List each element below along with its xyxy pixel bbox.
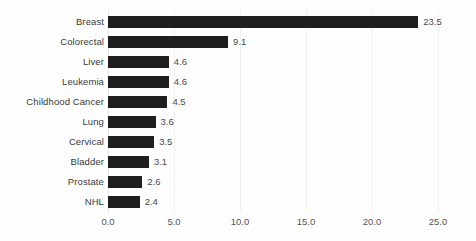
category-label: Lung [82,112,104,132]
bar-track: 23.5 [108,12,476,32]
bar-value-label: 2.6 [142,172,160,192]
category-label: Childhood Cancer [26,92,104,112]
bar-row: Lung3.6 [0,112,476,132]
category-label: Breast [76,12,104,32]
bar [108,56,169,68]
bar [108,76,169,88]
bar-row: Breast23.5 [0,12,476,32]
bar-track: 3.6 [108,112,476,132]
bar-value-label: 4.5 [167,92,185,112]
bar [108,156,149,168]
category-label: NHL [85,192,104,212]
bar-value-label: 3.1 [149,152,167,172]
bar-track: 4.5 [108,92,476,112]
bar-track: 4.6 [108,52,476,72]
bar-track: 3.1 [108,152,476,172]
bar-track: 3.5 [108,132,476,152]
x-tick-label: 0.0 [101,216,114,227]
category-label: Leukemia [62,72,104,92]
bar-row: Cervical3.5 [0,132,476,152]
bar-row: Prostate2.6 [0,172,476,192]
bar-chart: Breast23.5Colorectal9.1Liver4.6Leukemia4… [0,0,476,241]
bar [108,96,167,108]
bar-rows: Breast23.5Colorectal9.1Liver4.6Leukemia4… [0,12,476,212]
bar-row: Liver4.6 [0,52,476,72]
bar [108,176,142,188]
bar [108,16,418,28]
bar-value-label: 4.6 [169,52,187,72]
x-tick-label: 15.0 [297,216,316,227]
bar [108,196,140,208]
bar-value-label: 4.6 [169,72,187,92]
x-tick-label: 20.0 [363,216,382,227]
bar-row: NHL2.4 [0,192,476,212]
bar-row: Bladder3.1 [0,152,476,172]
bar-track: 4.6 [108,72,476,92]
category-label: Liver [83,52,104,72]
bar-value-label: 3.6 [156,112,174,132]
bar [108,116,156,128]
bar [108,136,154,148]
bar-row: Leukemia4.6 [0,72,476,92]
bar-track: 2.4 [108,192,476,212]
bar [108,36,228,48]
bar-track: 2.6 [108,172,476,192]
bar-value-label: 9.1 [228,32,246,52]
x-tick-label: 10.0 [231,216,250,227]
category-label: Prostate [68,172,104,192]
bar-value-label: 3.5 [154,132,172,152]
bar-row: Childhood Cancer4.5 [0,92,476,112]
bar-row: Colorectal9.1 [0,32,476,52]
category-label: Colorectal [60,32,104,52]
x-axis-tick-labels: 0.05.010.015.020.025.0 [0,216,476,236]
category-label: Cervical [69,132,104,152]
category-label: Bladder [71,152,104,172]
bar-value-label: 23.5 [418,12,442,32]
x-tick-label: 25.0 [429,216,448,227]
bar-value-label: 2.4 [140,192,158,212]
bar-track: 9.1 [108,32,476,52]
x-tick-label: 5.0 [167,216,180,227]
